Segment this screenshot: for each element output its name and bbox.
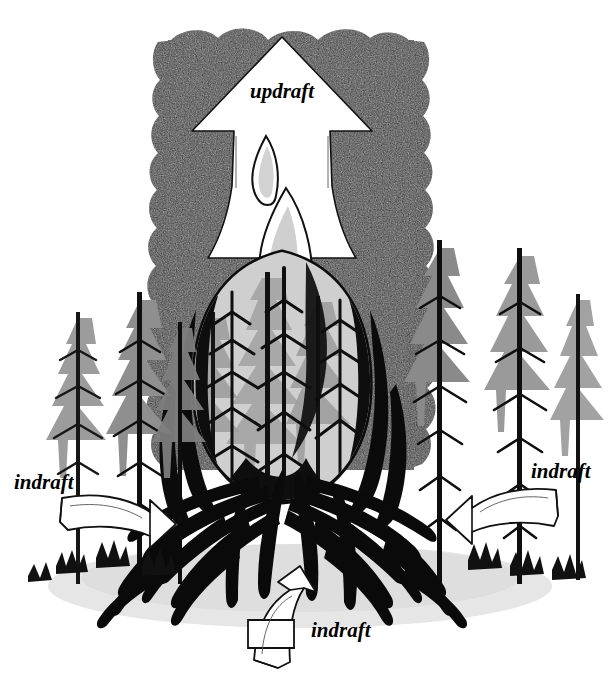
- conifer-trees-left: [46, 292, 206, 584]
- tree: [484, 248, 550, 584]
- indraft-arrow-right: [446, 489, 558, 544]
- tree: [46, 312, 106, 584]
- label-indraft-bottom: indraft: [311, 618, 372, 642]
- fire-diagram-svg: updraft: [0, 0, 616, 698]
- label-indraft-left: indraft: [14, 470, 75, 494]
- tree: [550, 294, 604, 580]
- label-indraft-right: indraft: [531, 459, 592, 483]
- illustration-canvas: updraft: [0, 0, 616, 698]
- label-updraft: updraft: [250, 79, 315, 103]
